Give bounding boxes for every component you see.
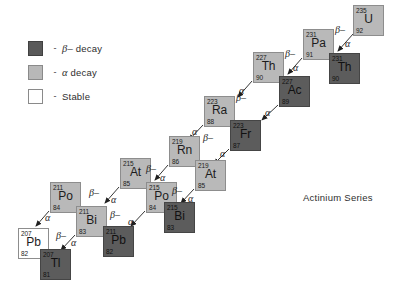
legend-swatch-stable — [28, 89, 43, 104]
nuclide-atomic-number: 83 — [79, 228, 86, 235]
nuclide-symbol: Th — [330, 61, 359, 74]
decay-label-alpha-rn-219-to-po-215: α — [160, 172, 165, 183]
nuclide-bi-215: 215Bi83 — [164, 202, 195, 233]
nuclide-symbol: Pb — [104, 234, 133, 247]
nuclide-at-219: 219At85 — [195, 160, 226, 191]
nuclide-fr-223: 223Fr87 — [230, 120, 261, 151]
decay-label-alpha-ac-227-to-fr-223: α — [265, 107, 270, 118]
nuclide-symbol: Bi — [165, 210, 194, 223]
legend-item-beta-decay: - β– decay — [28, 36, 102, 60]
decay-label-alpha-po-215-to-pb-211: α — [128, 216, 133, 227]
nuclide-atomic-number: 82 — [21, 250, 28, 257]
legend-dash: - — [48, 91, 62, 101]
nuclide-symbol: Th — [254, 60, 283, 73]
decay-chain-diagram: - β– decay - α decay - Stable — [0, 0, 398, 281]
nuclide-atomic-number: 89 — [282, 98, 289, 105]
nuclide-ac-227: 227Ac89 — [279, 76, 310, 107]
nuclide-atomic-number: 82 — [106, 248, 113, 255]
legend-item-alpha-decay: - α decay — [28, 60, 102, 84]
decay-label-beta-bi-215-to-po-215: β– — [172, 185, 182, 196]
nuclide-atomic-number: 85 — [123, 180, 130, 187]
decay-label-beta-fr-223-to-ra-223: β– — [236, 92, 246, 103]
nuclide-atomic-number: 91 — [306, 51, 313, 58]
nuclide-atomic-number: 88 — [207, 118, 214, 125]
nuclide-symbol: Tl — [41, 257, 70, 270]
decay-label-beta-th-231-to-pa-231: β– — [335, 24, 345, 35]
nuclide-atomic-number: 81 — [43, 271, 50, 278]
alpha-decay-text: decay — [68, 67, 97, 78]
decay-label-beta-ac-227-to-th-227: β– — [285, 48, 295, 59]
series-title: Actinium Series — [303, 192, 373, 203]
legend-swatch-alpha-decay — [28, 65, 43, 80]
nuclide-symbol: Po — [51, 190, 80, 203]
legend-item-stable: - Stable — [28, 84, 102, 108]
nuclide-th-231: 231Th90 — [329, 53, 360, 84]
decay-label-alpha-fr-223-to-at-219: α — [220, 148, 225, 159]
nuclide-u-235: 235U92 — [353, 5, 384, 36]
nuclide-atomic-number: 85 — [198, 182, 205, 189]
decay-label-beta-bi-211-to-po-211: β– — [89, 187, 99, 198]
decay-label-alpha-po-211-to-pb-207: α — [45, 212, 50, 223]
legend-swatch-beta-decay — [28, 41, 43, 56]
nuclide-symbol: U — [354, 13, 383, 26]
legend-dash: - — [48, 43, 62, 53]
nuclide-atomic-number: 90 — [332, 75, 339, 82]
nuclide-atomic-number: 84 — [149, 204, 156, 211]
decay-label-alpha-bi-211-to-tl-207: α — [71, 237, 76, 248]
decay-label-alpha-pa-231-to-ac-227: α — [293, 62, 298, 73]
nuclide-atomic-number: 87 — [233, 142, 240, 149]
beta-decay-text: decay — [73, 43, 102, 54]
nuclide-atomic-number: 90 — [256, 74, 263, 81]
beta-symbol: β– — [62, 43, 73, 54]
nuclide-symbol: Ac — [280, 84, 309, 97]
nuclide-atomic-number: 92 — [356, 27, 363, 34]
nuclide-symbol: Bi — [77, 214, 106, 227]
decay-label-alpha-at-215-to-bi-211: α — [111, 194, 116, 205]
nuclide-atomic-number: 83 — [167, 224, 174, 231]
legend-dash: - — [48, 67, 62, 77]
nuclide-symbol: Pb — [19, 236, 48, 249]
nuclide-symbol: Ra — [205, 104, 234, 117]
legend-label-beta-decay: β– decay — [62, 43, 102, 54]
nuclide-symbol: Rn — [170, 144, 199, 157]
nuclide-atomic-number: 86 — [172, 158, 179, 165]
decay-label-beta-tl-207-to-pb-207: β– — [56, 230, 66, 241]
decay-label-beta-po-215-to-at-215: β– — [146, 163, 156, 174]
nuclide-symbol: Fr — [231, 128, 260, 141]
legend: - β– decay - α decay - Stable — [28, 36, 102, 108]
decay-label-beta-pb-211-to-bi-211: β– — [110, 209, 120, 220]
nuclide-symbol: Pa — [304, 37, 333, 50]
decay-label-alpha-at-219-to-bi-215: α — [188, 193, 193, 204]
nuclide-pb-211: 211Pb82 — [103, 226, 134, 257]
nuclide-symbol: At — [196, 168, 225, 181]
legend-label-alpha-decay: α decay — [62, 67, 97, 78]
decay-label-alpha-u-235-to-th-231: α — [345, 38, 350, 49]
decay-label-beta-at-219-to-rn-219: β– — [203, 132, 213, 143]
legend-label-stable: Stable — [62, 91, 90, 102]
nuclide-atomic-number: 84 — [53, 204, 60, 211]
decay-label-alpha-ra-223-to-rn-219: α — [192, 126, 197, 137]
nuclide-tl-207: 207Tl81 — [40, 249, 71, 280]
